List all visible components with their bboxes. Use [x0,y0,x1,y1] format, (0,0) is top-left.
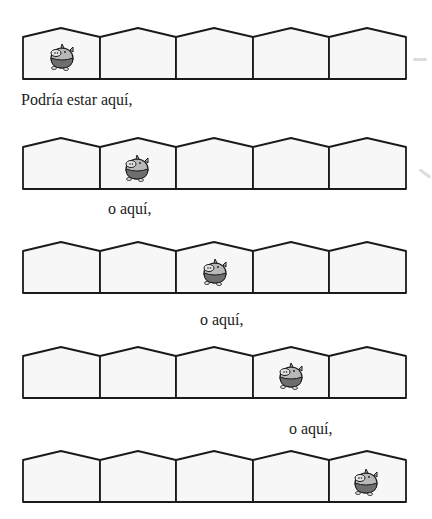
smudge [413,58,427,61]
house-row-1 [0,26,432,86]
houses-row-4 [0,345,432,405]
caption-row-1: Podría estar aquí, [21,91,133,109]
houses-row-1 [0,26,432,86]
caption-row-3: o aquí, [200,311,244,329]
caption-row-4: o aquí, [289,420,333,438]
house-row-2 [0,136,432,196]
houses-row-5 [0,449,432,509]
house-row-4 [0,345,432,405]
house-row-3 [0,240,432,300]
houses-row-2 [0,136,432,196]
houses-row-3 [0,240,432,300]
house-row-5 [0,449,432,509]
caption-row-2: o aquí, [108,200,152,218]
